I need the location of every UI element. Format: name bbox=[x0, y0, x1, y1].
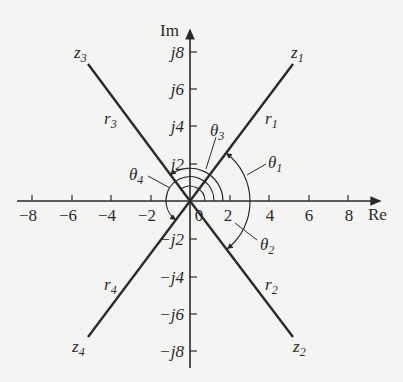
leader-theta1 bbox=[247, 164, 266, 175]
svg-text:j6: j6 bbox=[169, 80, 185, 99]
label-r3: r3 bbox=[104, 109, 117, 131]
angle-arc-theta1 bbox=[226, 153, 250, 201]
svg-text:−j4: −j4 bbox=[159, 268, 184, 287]
svg-text:j2: j2 bbox=[169, 155, 185, 174]
label-z4: z4 bbox=[71, 337, 85, 359]
diagram-canvas: Im Re −8 −6 −4 −2 0 2 4 6 8 j2 j4 j6 j8 … bbox=[0, 0, 403, 382]
label-theta3: θ3 bbox=[210, 121, 224, 143]
label-r1: r1 bbox=[265, 109, 278, 131]
leader-theta4 bbox=[148, 176, 170, 188]
svg-text:−6: −6 bbox=[59, 206, 77, 225]
imag-axis-label: Im bbox=[160, 21, 179, 40]
label-r2: r2 bbox=[265, 275, 278, 297]
label-z2: z2 bbox=[292, 337, 306, 359]
label-theta4: θ4 bbox=[129, 165, 143, 187]
real-axis-label: Re bbox=[368, 205, 387, 224]
svg-text:−j8: −j8 bbox=[159, 342, 184, 361]
svg-text:8: 8 bbox=[345, 206, 354, 225]
svg-text:−j2: −j2 bbox=[159, 230, 184, 249]
vector-z2 bbox=[190, 201, 293, 337]
svg-text:2: 2 bbox=[224, 206, 233, 225]
label-z1: z1 bbox=[290, 43, 304, 65]
complex-plane-diagram: Im Re −8 −6 −4 −2 0 2 4 6 8 j2 j4 j6 j8 … bbox=[0, 0, 403, 382]
leader-theta3 bbox=[206, 137, 216, 169]
svg-text:−4: −4 bbox=[98, 206, 117, 225]
svg-text:j8: j8 bbox=[169, 43, 185, 62]
label-r4: r4 bbox=[104, 275, 117, 297]
svg-text:j4: j4 bbox=[169, 117, 185, 136]
svg-text:4: 4 bbox=[266, 206, 275, 225]
label-theta2: θ2 bbox=[260, 235, 274, 257]
label-theta1: θ1 bbox=[268, 153, 282, 175]
label-z3: z3 bbox=[73, 43, 87, 65]
vector-z1 bbox=[190, 64, 293, 201]
svg-text:−j6: −j6 bbox=[159, 305, 184, 324]
imag-tick-labels: j2 j4 j6 j8 −j2 −j4 −j6 −j8 bbox=[159, 43, 184, 361]
svg-text:0: 0 bbox=[195, 206, 204, 225]
svg-text:6: 6 bbox=[305, 206, 314, 225]
svg-text:−2: −2 bbox=[138, 206, 156, 225]
svg-text:−8: −8 bbox=[19, 206, 37, 225]
real-tick-labels: −8 −6 −4 −2 0 2 4 6 8 bbox=[19, 206, 353, 225]
